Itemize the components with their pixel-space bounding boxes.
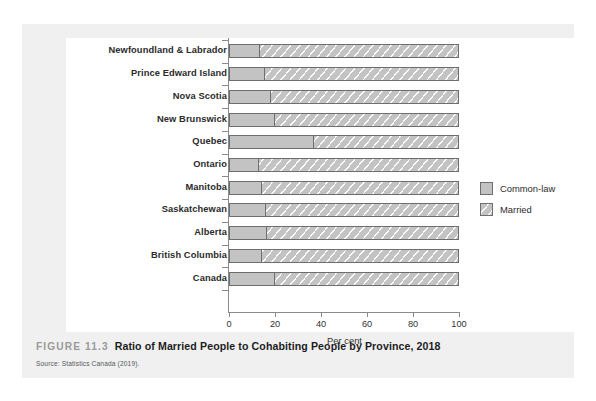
bar-row	[229, 113, 459, 127]
hatched-gray-swatch-icon	[480, 203, 493, 216]
bar-segment-married	[274, 113, 459, 127]
x-axis-tick-label: 60	[362, 319, 372, 329]
x-axis-tick	[275, 312, 276, 317]
bar-row	[229, 135, 459, 149]
category-label: Alberta	[52, 228, 227, 237]
figure-source: Source: Statistics Canada (2019).	[36, 360, 566, 367]
x-axis-tick-label: 0	[226, 319, 231, 329]
bar-segment-common-law	[229, 181, 261, 195]
legend-label-common-law: Common-law	[500, 183, 555, 194]
bar-row	[229, 226, 459, 240]
caption-heading: FIGURE 11.3Ratio of Married People to Co…	[36, 340, 566, 353]
bar-segment-common-law	[229, 203, 265, 217]
category-label: British Columbia	[52, 251, 227, 260]
y-axis-tick	[222, 267, 229, 268]
bar-row	[229, 181, 459, 195]
bar-row	[229, 203, 459, 217]
bars-container	[229, 40, 459, 290]
y-axis-tick	[222, 108, 229, 109]
x-axis-tick	[321, 312, 322, 317]
figure-number: FIGURE 11.3	[36, 341, 109, 352]
bar-segment-married	[261, 249, 459, 263]
x-axis-tick	[413, 312, 414, 317]
category-label: Prince Edward Island	[52, 69, 227, 78]
y-axis-tick	[222, 199, 229, 200]
bar-row	[229, 272, 459, 286]
category-label: Canada	[52, 274, 227, 283]
bar-segment-married	[266, 226, 459, 240]
category-label: Ontario	[52, 160, 227, 169]
bar-row	[229, 67, 459, 81]
bar-segment-married	[313, 135, 459, 149]
x-axis-tick-label: 40	[316, 319, 326, 329]
bar-segment-common-law	[229, 135, 313, 149]
bar-segment-married	[258, 158, 459, 172]
x-axis-tick	[229, 312, 230, 317]
bar-row	[229, 249, 459, 263]
y-axis-tick	[222, 245, 229, 246]
figure-caption: FIGURE 11.3Ratio of Married People to Co…	[36, 340, 566, 367]
category-label: Quebec	[52, 137, 227, 146]
bar-segment-married	[270, 90, 459, 104]
y-axis-tick	[222, 290, 229, 291]
bar-row	[229, 44, 459, 58]
category-label: Newfoundland & Labrador	[52, 46, 227, 55]
bar-segment-common-law	[229, 158, 258, 172]
bar-row	[229, 90, 459, 104]
bar-segment-common-law	[229, 226, 266, 240]
legend-item-common-law: Common-law	[480, 182, 580, 195]
y-axis-tick	[222, 40, 229, 41]
x-axis-line	[228, 312, 460, 313]
x-axis-tick-label: 100	[451, 319, 466, 329]
category-axis-labels: Newfoundland & LabradorPrince Edward Isl…	[52, 40, 227, 290]
bar-segment-common-law	[229, 272, 274, 286]
bar-segment-common-law	[229, 249, 261, 263]
x-axis-tick	[367, 312, 368, 317]
bar-segment-married	[261, 181, 459, 195]
y-axis-tick	[222, 131, 229, 132]
bar-row	[229, 158, 459, 172]
bar-segment-common-law	[229, 44, 259, 58]
y-axis-tick	[222, 222, 229, 223]
legend-item-married: Married	[480, 203, 580, 216]
y-axis-tick	[222, 85, 229, 86]
figure-card: Newfoundland & LabradorPrince Edward Isl…	[22, 24, 574, 378]
x-axis-tick	[459, 312, 460, 317]
y-axis-tick	[222, 63, 229, 64]
bar-segment-married	[259, 44, 459, 58]
bar-segment-married	[264, 67, 460, 81]
bar-segment-married	[274, 272, 459, 286]
figure-screenshot: Newfoundland & LabradorPrince Edward Isl…	[0, 0, 596, 401]
bar-segment-married	[265, 203, 459, 217]
solid-gray-swatch-icon	[480, 182, 493, 195]
y-axis-tick	[222, 176, 229, 177]
figure-title: Ratio of Married People to Cohabiting Pe…	[115, 340, 441, 352]
x-axis-tick-label: 20	[270, 319, 280, 329]
chart-legend: Common-law Married	[480, 182, 580, 224]
stacked-bar-chart: Newfoundland & LabradorPrince Edward Isl…	[22, 24, 574, 334]
category-label: New Brunswick	[52, 115, 227, 124]
bar-segment-common-law	[229, 67, 264, 81]
category-label: Manitoba	[52, 183, 227, 192]
bar-segment-common-law	[229, 113, 274, 127]
bar-segment-common-law	[229, 90, 270, 104]
category-label: Saskatchewan	[52, 205, 227, 214]
category-label: Nova Scotia	[52, 92, 227, 101]
y-axis-tick	[222, 154, 229, 155]
x-axis-tick-label: 80	[408, 319, 418, 329]
legend-label-married: Married	[500, 204, 532, 215]
